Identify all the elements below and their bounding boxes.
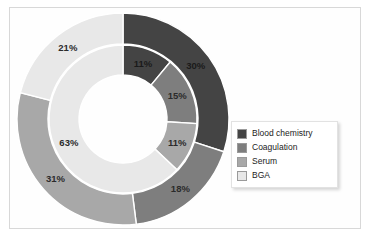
slice-label-outer-1: 18% <box>171 183 191 194</box>
legend-swatch-bga <box>237 171 247 181</box>
legend-label-blood-chemistry: Blood chemistry <box>252 128 312 139</box>
inner-ring <box>49 45 197 193</box>
legend-label-bga: BGA <box>252 170 270 181</box>
donut-chart-area: 30%18%31%21%11%15%11%63% <box>14 10 232 228</box>
legend-label-coagulation: Coagulation <box>252 142 297 153</box>
chart-legend: Blood chemistry Coagulation Serum BGA <box>231 121 338 188</box>
slice-label-outer-3: 21% <box>58 42 78 53</box>
legend-swatch-blood-chemistry <box>237 129 247 139</box>
legend-item-bga[interactable]: BGA <box>237 169 331 182</box>
slice-label-outer-0: 30% <box>186 60 206 71</box>
slice-label-outer-2: 31% <box>46 173 66 184</box>
legend-swatch-coagulation <box>237 143 247 153</box>
slice-label-inner-3: 63% <box>59 137 79 148</box>
legend-item-coagulation[interactable]: Coagulation <box>237 141 331 154</box>
legend-item-blood-chemistry[interactable]: Blood chemistry <box>237 127 331 140</box>
chart-figure: 30%18%31%21%11%15%11%63% Blood chemistry… <box>0 0 370 237</box>
legend-label-serum: Serum <box>252 156 277 167</box>
slice-label-inner-1: 15% <box>168 90 188 101</box>
legend-item-serum[interactable]: Serum <box>237 155 331 168</box>
nested-donut-chart: 30%18%31%21%11%15%11%63% <box>14 10 232 228</box>
legend-swatch-serum <box>237 157 247 167</box>
slice-label-inner-2: 11% <box>168 137 187 148</box>
slice-label-inner-0: 11% <box>134 58 153 69</box>
